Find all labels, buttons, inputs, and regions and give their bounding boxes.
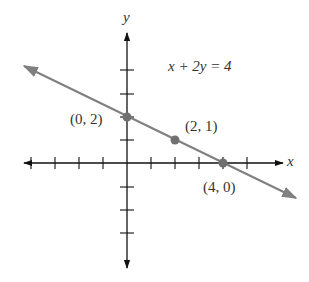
x-axis-label: x xyxy=(287,154,294,169)
point-label-0-2: (0, 2) xyxy=(70,112,103,127)
point-label-2-1: (2, 1) xyxy=(185,119,218,134)
point-4-0 xyxy=(219,159,228,168)
point-0-2 xyxy=(123,113,132,122)
equation-label: x + 2y = 4 xyxy=(168,59,232,74)
y-axis-label: y xyxy=(123,10,130,25)
equation-line xyxy=(24,66,296,198)
coordinate-plane xyxy=(0,0,309,282)
point-label-4-0: (4, 0) xyxy=(203,180,236,195)
point-2-1 xyxy=(171,136,180,145)
